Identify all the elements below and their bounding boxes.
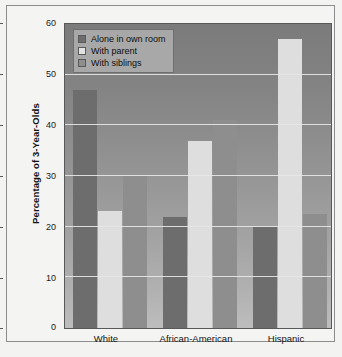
y-tick-label-60: 60 xyxy=(28,19,56,28)
y-tick-label-40: 40 xyxy=(28,121,56,130)
legend-item-alone-in-own-room: Alone in own room xyxy=(78,33,166,45)
legend-item-with-siblings: With siblings xyxy=(78,57,166,69)
y-tick-label-20: 20 xyxy=(28,223,56,232)
legend-label: With siblings xyxy=(91,58,142,68)
bar-white-with-parent xyxy=(98,211,122,328)
y-tick-mark xyxy=(0,176,3,177)
legend-label: With parent xyxy=(91,46,137,56)
bar-white-alone-in-own-room xyxy=(73,90,97,328)
legend-label: Alone in own room xyxy=(91,34,166,44)
bar-african-american-alone-in-own-room xyxy=(163,217,187,328)
legend-swatch-icon xyxy=(78,47,86,55)
figure-frame: Percentage of 3-Year-Olds 60 50 40 30 20… xyxy=(6,5,335,342)
y-tick-label-10: 10 xyxy=(28,274,56,283)
bar-white-with-siblings xyxy=(123,176,147,328)
bar-african-american-with-parent xyxy=(188,141,212,328)
legend-item-with-parent: With parent xyxy=(78,45,166,57)
x-tick-label-african-american: African-American xyxy=(154,333,238,344)
y-tick-mark xyxy=(0,125,3,126)
plot-area: Alone in own room With parent With sibli… xyxy=(64,23,332,329)
bar-hispanic-with-parent xyxy=(278,39,302,328)
y-tick-mark xyxy=(0,74,3,75)
y-tick-label-30: 30 xyxy=(28,172,56,181)
y-tick-mark xyxy=(0,227,3,228)
bar-african-american-with-siblings xyxy=(213,120,237,328)
y-tick-label-0: 0 xyxy=(28,323,56,332)
y-tick-label-50: 50 xyxy=(28,70,56,79)
legend-swatch-icon xyxy=(78,59,86,67)
bar-hispanic-alone-in-own-room xyxy=(253,227,277,328)
y-tick-mark xyxy=(0,278,3,279)
legend-swatch-icon xyxy=(78,35,86,43)
y-tick-mark xyxy=(0,328,3,329)
y-tick-mark xyxy=(0,23,3,24)
chart-legend: Alone in own room With parent With sibli… xyxy=(73,29,174,73)
x-tick-label-white: White xyxy=(64,333,148,344)
bar-hispanic-with-siblings xyxy=(303,214,327,328)
x-tick-label-hispanic: Hispanic xyxy=(244,333,328,344)
chart-figure: Percentage of 3-Year-Olds 60 50 40 30 20… xyxy=(0,0,342,357)
